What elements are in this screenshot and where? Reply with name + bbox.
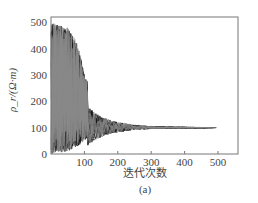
y-axis-ticks: 0100200300400500 [31,16,48,160]
convergence-traces [51,24,216,154]
y-axis-label: ρ_r/(Ω·m) [6,68,19,113]
x-tick-label: 400 [176,156,193,168]
y-tick-label: 400 [31,43,48,55]
y-tick-label: 100 [31,122,48,134]
y-tick-label: 0 [42,148,48,160]
panel-label: (a) [139,183,152,196]
x-tick-label: 100 [76,156,93,168]
x-axis-label: 迭代次数 [123,166,167,179]
chart: 0100200300400500 100200300400500 ρ_r/(Ω·… [0,0,258,203]
y-tick-label: 200 [31,95,48,107]
x-tick-label: 500 [210,156,227,168]
y-tick-label: 300 [31,69,48,81]
y-tick-label: 500 [31,16,48,28]
